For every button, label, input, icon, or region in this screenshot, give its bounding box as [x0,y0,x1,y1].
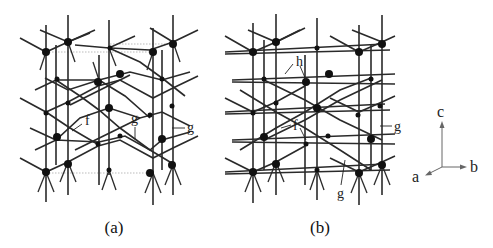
lattice-figure: f g g [0,0,493,248]
caption-a: (a) [94,218,134,238]
axis-b-label: b [470,158,478,175]
figure: f g g [0,0,493,248]
label-f-b: f [293,118,298,133]
axis-a-label: a [412,168,419,185]
caption-b: (b) [300,218,340,238]
label-h-b: h [296,54,303,69]
panel-b-lattice [225,14,395,205]
label-g-b-1: g [394,119,401,134]
label-g-b-2: g [337,186,344,201]
label-g-a-2: g [187,120,194,135]
axis-c-label: c [437,103,444,120]
axis-triad [425,121,467,176]
label-f-a: f [85,113,90,128]
label-g-a-1: g [131,111,138,126]
